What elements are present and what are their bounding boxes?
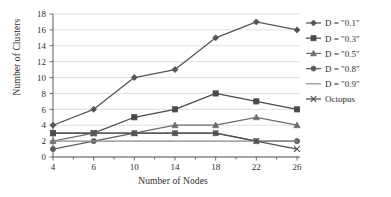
x-tick-label: 26 (293, 162, 303, 172)
x-tick-label: 18 (211, 162, 221, 172)
data-point-marker (50, 146, 55, 151)
legend-item-5[interactable]: D = "0.9" (306, 79, 360, 89)
series-3 (50, 114, 300, 143)
y-tick-label: 18 (37, 9, 47, 19)
axis-lines (50, 14, 301, 161)
y-tick-label: 8 (42, 89, 47, 99)
legend-item-6[interactable]: Octopus (306, 94, 355, 104)
data-point-marker (213, 91, 218, 96)
y-tick-label: 10 (37, 73, 47, 83)
legend-label: D = "0.3" (325, 34, 360, 44)
data-point-marker (294, 27, 300, 33)
chart-container: Number of Clusters Number of Nodes 02468… (0, 0, 391, 197)
chart-legend: D = "0.1"D = "0.3"D = "0.5"D = "0.8"D = … (306, 18, 360, 104)
series-line (53, 117, 297, 141)
data-point-marker (254, 99, 259, 104)
legend-item-1[interactable]: D = "0.1" (306, 18, 360, 28)
data-point-marker (311, 36, 316, 41)
legend-item-3[interactable]: D = "0.5" (306, 49, 360, 59)
data-point-marker (253, 19, 259, 25)
x-tick-label: 4 (51, 162, 56, 172)
data-point-marker (253, 114, 259, 120)
data-point-marker (311, 20, 317, 26)
y-tick-label: 16 (37, 25, 47, 35)
legend-label: D = "0.5" (325, 49, 360, 59)
legend-label: Octopus (325, 94, 355, 104)
x-tick-label: 6 (91, 162, 96, 172)
data-point-marker (50, 122, 56, 128)
y-tick-label: 6 (42, 105, 47, 115)
data-point-marker (294, 107, 299, 112)
x-tick-label: 22 (252, 162, 261, 172)
data-series (50, 19, 300, 152)
data-point-marker (172, 107, 177, 112)
y-tick-label: 12 (37, 57, 46, 67)
y-tick-label: 4 (42, 120, 47, 130)
y-axis-tick-labels: 024681012141618 (37, 9, 47, 162)
y-tick-label: 14 (37, 41, 47, 51)
legend-label: D = "0.8" (325, 64, 360, 74)
legend-label: D = "0.9" (325, 79, 360, 89)
legend-item-4[interactable]: D = "0.8" (306, 64, 360, 74)
y-tick-label: 0 (42, 152, 47, 162)
data-point-marker (311, 66, 316, 71)
legend-item-2[interactable]: D = "0.3" (306, 34, 360, 44)
x-tick-label: 10 (130, 162, 140, 172)
series-2 (50, 91, 299, 136)
legend-label: D = "0.1" (325, 18, 360, 28)
data-point-marker (132, 115, 137, 120)
x-axis-tick-labels: 461014182226 (51, 162, 302, 172)
line-chart-plot: 024681012141618 461014182226 D = "0.1"D … (0, 0, 391, 197)
y-tick-label: 2 (42, 136, 47, 146)
x-tick-label: 14 (171, 162, 181, 172)
